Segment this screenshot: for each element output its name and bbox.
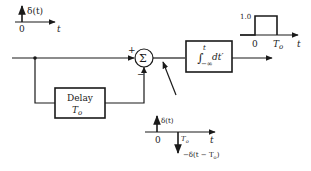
pulse-end-label: To xyxy=(273,39,283,51)
pulse-origin-label: 0 xyxy=(252,39,258,49)
output-pulse-plot: 1.0 0 To t xyxy=(240,13,301,51)
integrator-block: ∫ t −∞ dt′ xyxy=(186,41,232,72)
input-impulse-plot: δ(t) 0 t xyxy=(15,6,61,34)
pulse-axis-label: t xyxy=(297,39,301,49)
input-axis-label: t xyxy=(57,24,61,34)
junction-delay-label: To xyxy=(181,135,189,144)
plus-sign: + xyxy=(128,45,136,55)
input-origin-label: 0 xyxy=(19,24,25,34)
pulse-amplitude-label: 1.0 xyxy=(240,13,251,21)
positive-impulse-label: δ(t) xyxy=(161,117,174,125)
junction-origin-label: 0 xyxy=(155,135,161,145)
junction-axis-label: t xyxy=(210,135,214,145)
forward-path xyxy=(12,56,134,60)
summing-junction: Σ + − xyxy=(128,45,153,79)
junction-signal-plot: δ(t) 0 To t −δ(t − To) xyxy=(145,116,220,160)
delay-title: Delay xyxy=(67,93,94,103)
negative-impulse-label: −δ(t − To) xyxy=(183,151,220,160)
input-impulse-label: δ(t) xyxy=(27,6,43,16)
pointer-arrow xyxy=(163,62,176,95)
delay-param: To xyxy=(72,105,82,117)
integrand: dt′ xyxy=(212,52,223,62)
sigma-symbol: Σ xyxy=(139,52,147,65)
feedback-line-in xyxy=(35,58,55,103)
integral-upper-limit: t xyxy=(203,44,206,52)
feedback-path: Delay To xyxy=(35,58,147,118)
block-diagram: δ(t) 0 t Σ + − ∫ t −∞ dt′ 1.0 0 To t Del xyxy=(0,0,311,171)
